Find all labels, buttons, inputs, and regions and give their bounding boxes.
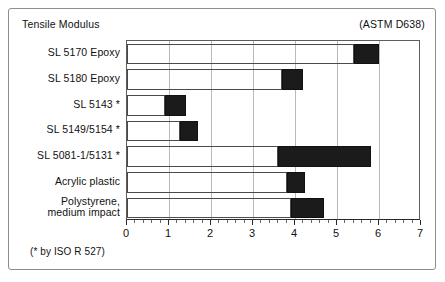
category-label: Polystyrene, medium impact — [48, 196, 121, 219]
x-axis-tick — [420, 220, 421, 225]
bar-row[interactable] — [127, 121, 419, 142]
x-axis-tick — [126, 220, 127, 225]
bar-row[interactable] — [127, 146, 419, 167]
bar-outline-segment — [127, 44, 354, 65]
figure-container: Tensile Modulus (ASTM D638) (* by ISO R … — [0, 0, 445, 282]
x-axis-minor-tick — [218, 220, 219, 223]
x-axis-minor-tick — [260, 220, 261, 223]
x-axis-tick — [378, 220, 379, 225]
x-axis-minor-tick — [227, 220, 228, 223]
x-axis-tick-label: 6 — [375, 227, 381, 239]
x-axis-minor-tick — [202, 220, 203, 223]
bar-outline-segment — [127, 172, 287, 193]
x-axis-minor-tick — [244, 220, 245, 223]
bar-outline-segment — [127, 146, 278, 167]
bar-row[interactable] — [127, 95, 419, 116]
category-label: SL 5180 Epoxy — [48, 73, 120, 85]
x-axis-minor-tick — [143, 220, 144, 223]
x-axis-minor-tick — [269, 220, 270, 223]
category-label: SL 5081-1/5131 * — [37, 150, 120, 162]
x-axis-tick-label: 5 — [333, 227, 339, 239]
x-axis-tick — [168, 220, 169, 225]
x-axis-minor-tick — [193, 220, 194, 223]
category-label: Acrylic plastic — [55, 176, 120, 188]
x-axis-minor-tick — [286, 220, 287, 223]
bar-filled-segment — [180, 121, 199, 142]
standard-label: (ASTM D638) — [359, 18, 425, 30]
category-label: SL 5149/5154 * — [47, 124, 120, 136]
bar-outline-segment — [127, 121, 180, 142]
x-axis-tick — [294, 220, 295, 225]
bar-filled-segment — [282, 69, 303, 90]
plot-area — [126, 40, 420, 220]
x-axis-minor-tick — [302, 220, 303, 223]
x-axis-minor-tick — [386, 220, 387, 223]
x-axis-tick-label: 2 — [207, 227, 213, 239]
bar-filled-segment — [165, 95, 186, 116]
page-title: Tensile Modulus — [22, 18, 100, 30]
x-axis-tick-label: 0 — [123, 227, 129, 239]
x-axis-minor-tick — [370, 220, 371, 223]
x-axis-tick-label: 1 — [165, 227, 171, 239]
x-axis-minor-tick — [412, 220, 413, 223]
category-label: SL 5143 * — [73, 99, 120, 111]
bar-row[interactable] — [127, 44, 419, 65]
x-axis-minor-tick — [311, 220, 312, 223]
x-axis-minor-tick — [319, 220, 320, 223]
x-axis-tick-label: 4 — [291, 227, 297, 239]
x-axis-minor-tick — [151, 220, 152, 223]
x-axis-minor-tick — [235, 220, 236, 223]
x-axis-minor-tick — [403, 220, 404, 223]
footnote: (* by ISO R 527) — [30, 246, 105, 257]
x-axis-tick-label: 7 — [417, 227, 423, 239]
x-axis-minor-tick — [134, 220, 135, 223]
x-axis-minor-tick — [160, 220, 161, 223]
bar-outline-segment — [127, 95, 165, 116]
x-axis-minor-tick — [176, 220, 177, 223]
bar-filled-segment — [287, 172, 306, 193]
bar-outline-segment — [127, 198, 291, 219]
x-axis-tick — [336, 220, 337, 225]
x-axis-minor-tick — [353, 220, 354, 223]
bar-row[interactable] — [127, 172, 419, 193]
bar-outline-segment — [127, 69, 282, 90]
x-axis-minor-tick — [344, 220, 345, 223]
x-axis-minor-tick — [328, 220, 329, 223]
x-axis-minor-tick — [361, 220, 362, 223]
x-axis-tick — [210, 220, 211, 225]
category-label: SL 5170 Epoxy — [48, 47, 120, 59]
bar-row[interactable] — [127, 69, 419, 90]
x-axis-minor-tick — [395, 220, 396, 223]
bar-filled-segment — [278, 146, 370, 167]
x-axis-minor-tick — [277, 220, 278, 223]
bar-row[interactable] — [127, 198, 419, 219]
x-axis-tick — [252, 220, 253, 225]
x-axis-minor-tick — [185, 220, 186, 223]
bar-filled-segment — [354, 44, 379, 65]
bar-filled-segment — [291, 198, 325, 219]
x-axis-tick-label: 3 — [249, 227, 255, 239]
